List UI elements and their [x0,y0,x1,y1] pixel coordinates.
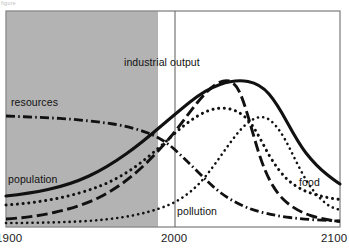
chart-plot-area [0,0,349,250]
x-axis-tick-2100: 2100 [321,232,347,244]
curve-label-food: food [299,176,320,188]
curve-label-population: population [8,173,57,185]
curve-label-pollution: pollution [177,205,217,217]
curve-label-resources: resources [11,96,58,108]
curve-label-industrial-output: industrial output [124,56,200,68]
x-axis-tick-2000: 2000 [161,232,187,244]
world3-chart: figure resources population industrial o… [0,0,349,250]
x-axis-tick-1900: 1900 [0,232,22,244]
